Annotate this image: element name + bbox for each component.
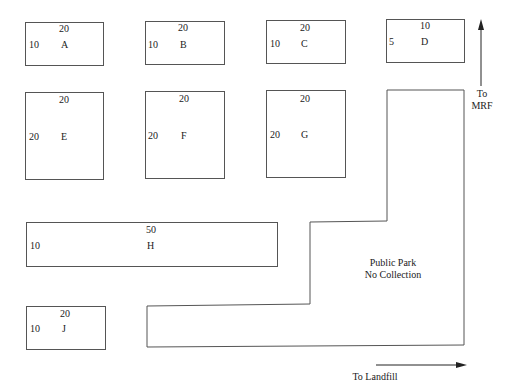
to-landfill-label: To Landfill (340, 371, 410, 383)
to-mrf-line2: MRF (468, 100, 496, 112)
arrow-up-icon (478, 19, 484, 86)
to-mrf-line1: To (468, 88, 496, 100)
city-block-map: 20 10 A 20 10 B 20 10 C 10 5 D 20 20 E 2… (0, 0, 517, 385)
to-mrf-label: To MRF (468, 88, 496, 112)
park-label: Public Park No Collection (350, 257, 436, 281)
public-park-outline (147, 90, 464, 347)
park-and-arrows-layer (0, 0, 517, 385)
park-label-line2: No Collection (350, 269, 436, 281)
park-label-line1: Public Park (350, 257, 436, 269)
arrow-right-icon (376, 362, 467, 368)
